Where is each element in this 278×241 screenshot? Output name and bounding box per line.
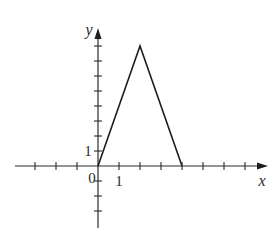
axes bbox=[15, 28, 268, 228]
y-axis-label: y bbox=[83, 21, 93, 39]
x-axis-label: x bbox=[257, 172, 265, 189]
function-graph-line bbox=[98, 46, 182, 166]
origin-label: 0 bbox=[88, 170, 96, 186]
y-unit-tick-label: 1 bbox=[84, 143, 92, 159]
x-axis-arrow-icon bbox=[257, 163, 268, 170]
tick-marks bbox=[35, 46, 245, 211]
y-axis-arrow-icon bbox=[95, 28, 102, 39]
graph-figure: x y 0 1 1 bbox=[0, 0, 278, 241]
x-unit-tick-label: 1 bbox=[115, 173, 123, 189]
